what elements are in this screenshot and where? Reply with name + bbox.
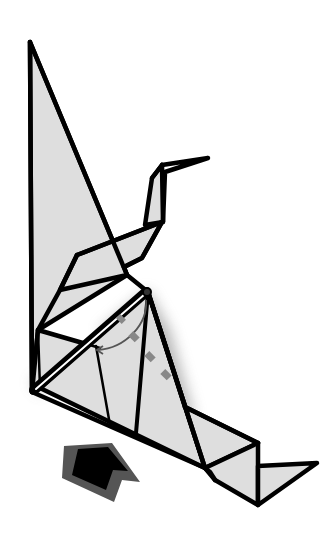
push-arrow-icon <box>62 443 140 502</box>
origami-diagram: Origami crane folding step <box>0 0 336 545</box>
